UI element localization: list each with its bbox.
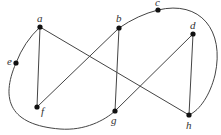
vertex-a [37, 24, 42, 29]
edge-d-g [115, 34, 193, 111]
edge-b-g [115, 28, 119, 111]
curved-edge-a-e [16, 27, 40, 63]
vertex-b [116, 25, 121, 30]
edge-b-f [37, 28, 119, 107]
edge-a-h [40, 27, 189, 115]
vertex-label-e: e [7, 55, 12, 67]
vertex-h [186, 112, 191, 117]
graph-diagram: abcdefgh [0, 0, 221, 135]
curved-edge-c-h [158, 8, 217, 115]
vertex-d [190, 31, 195, 36]
vertex-e [13, 60, 18, 65]
vertex-label-a: a [37, 12, 43, 24]
curved-edge-e-g [9, 63, 115, 129]
vertex-c [155, 7, 160, 12]
vertex-label-d: d [190, 19, 196, 31]
vertex-label-g: g [111, 114, 117, 126]
edge-a-f [37, 27, 40, 107]
curved-edge-b-c [119, 10, 158, 28]
vertex-f [34, 104, 39, 109]
vertex-label-b: b [116, 12, 122, 24]
vertex-g [112, 108, 117, 113]
vertex-label-h: h [186, 119, 192, 131]
edge-d-h [189, 34, 193, 115]
vertex-label-f: f [41, 105, 46, 117]
vertex-label-c: c [155, 0, 160, 8]
